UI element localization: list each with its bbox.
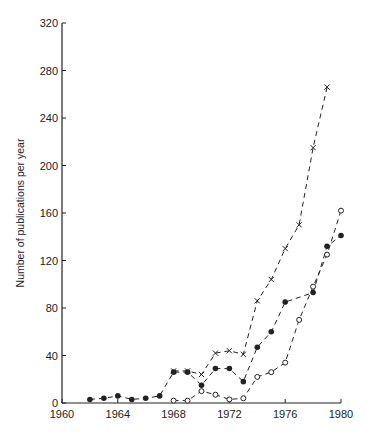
series-filled-circles [87,233,344,402]
series-line [174,87,328,374]
y-tick-label: 240 [40,112,58,124]
data-point [199,372,204,377]
series-line [90,236,341,400]
publications-line-chart: 04080120160200240280320 1960196419681972… [0,0,373,436]
data-point [213,392,218,397]
y-tick-label: 120 [40,255,58,267]
data-point [115,393,121,399]
x-tick-label: 1972 [217,408,241,420]
y-axis-title: Number of publications per year [14,138,26,287]
data-point [283,360,288,365]
data-point [199,389,204,394]
x-tick-label: 1960 [50,408,74,420]
data-point [87,397,93,403]
data-point [339,208,344,213]
x-tick-label: 1964 [106,408,130,420]
data-point [185,398,190,403]
data-point [171,398,176,403]
y-tick-label: 280 [40,65,58,77]
data-point [241,379,247,385]
data-point [171,369,177,375]
data-point [227,397,232,402]
series-open-circles [171,208,343,403]
x-tick-label: 1968 [161,408,185,420]
data-point [311,284,316,289]
data-point [254,344,260,350]
y-tick-label: 200 [40,160,58,172]
data-series [87,85,344,404]
y-tick-label: 320 [40,17,58,29]
data-point [297,317,302,322]
data-point [143,395,149,401]
x-axis-ticks: 196019641968197219761980 [50,399,353,420]
data-point [268,329,274,335]
x-tick-label: 1980 [329,408,353,420]
data-point [338,233,344,239]
data-point [255,374,260,379]
data-point [241,396,246,401]
axes [62,23,341,403]
data-point [129,397,135,403]
y-tick-label: 160 [40,207,58,219]
y-tick-label: 80 [46,302,58,314]
data-point [269,370,274,375]
data-point [269,277,274,282]
y-tick-label: 40 [46,350,58,362]
series-crosses [171,85,330,378]
data-point [283,246,288,251]
x-tick-label: 1976 [273,408,297,420]
data-point [199,382,205,388]
data-point [101,395,107,401]
data-point [157,393,163,399]
data-point [282,299,288,305]
data-point [325,252,330,257]
data-point [213,366,219,372]
data-point [185,369,191,375]
data-point [227,366,233,372]
